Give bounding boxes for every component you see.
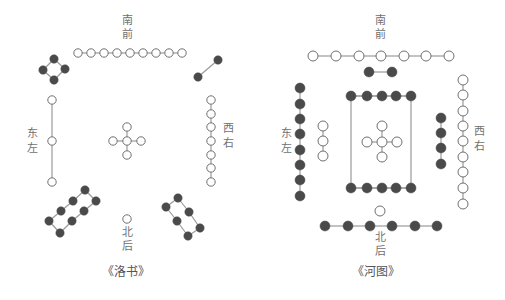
hetu-south-char: 南 [373, 14, 387, 27]
hetu-label-east: 东 左 [279, 127, 293, 155]
luoshu-black-dot-icon [61, 65, 69, 73]
luoshu-black-dot-icon [50, 76, 58, 84]
hetu-back-char: 后 [373, 245, 387, 258]
hetu-black-dot-icon [377, 91, 387, 101]
hetu-dots [295, 51, 468, 231]
hetu-white-dot-icon [458, 183, 468, 193]
luoshu-black-dot-icon [194, 73, 202, 81]
hetu-white-dot-icon [458, 90, 468, 100]
luoshu-black-dot-icon [57, 207, 65, 215]
hetu-white-dot-icon [354, 51, 364, 61]
hetu-north-char: 北 [373, 231, 387, 244]
luoshu-label-west: 西 右 [221, 122, 235, 150]
luoshu-black-dot-icon [81, 186, 89, 194]
hetu-right-char: 右 [472, 140, 486, 153]
hetu-white-dot-icon [458, 167, 468, 177]
hetu-label-north: 北 后 [373, 231, 387, 258]
hetu-black-dot-icon [432, 221, 442, 231]
hetu-black-dot-icon [387, 221, 397, 231]
luoshu-black-dot-icon [69, 197, 77, 205]
hetu-white-dot-icon [458, 106, 468, 116]
hetu-black-dot-icon [364, 67, 374, 77]
hetu-front-char: 前 [373, 28, 387, 41]
hetu-black-dot-icon [406, 183, 416, 193]
luoshu-black-dot-icon [162, 203, 170, 211]
hetu-white-dot-icon [308, 51, 318, 61]
luoshu-white-dot-icon [123, 123, 131, 131]
luoshu-black-dot-icon [196, 224, 204, 232]
hetu-label-south: 南 前 [373, 14, 387, 41]
hetu-black-dot-icon [387, 67, 397, 77]
hetu-left-char: 左 [279, 142, 293, 155]
hetu-black-dot-icon [436, 113, 446, 123]
luoshu-white-dot-icon [139, 49, 147, 57]
luoshu-white-dot-icon [207, 123, 215, 131]
luoshu-east-char: 东 [25, 127, 39, 140]
luoshu-white-dot-icon [207, 110, 215, 118]
hetu-east-char: 东 [279, 127, 293, 140]
hetu-black-dot-icon [377, 183, 387, 193]
hetu-caption: 《河图》 [352, 262, 400, 279]
hetu-black-dot-icon [346, 183, 356, 193]
luoshu-back-char: 后 [120, 240, 134, 253]
luoshu-west-char: 西 [221, 122, 235, 135]
hetu-black-dot-icon [295, 129, 305, 139]
hetu-white-dot-icon [377, 121, 387, 131]
luoshu-front-char: 前 [120, 28, 134, 41]
hetu-black-dot-icon [295, 114, 305, 124]
luoshu-white-dot-icon [48, 178, 56, 186]
luoshu-white-dot-icon [74, 49, 82, 57]
luoshu-north-char: 北 [120, 226, 134, 239]
luoshu-white-dot-icon [100, 49, 108, 57]
luoshu-white-dot-icon [137, 137, 145, 145]
luoshu-black-dot-icon [39, 66, 47, 74]
luoshu-white-dot-icon [207, 137, 215, 145]
luoshu-black-dot-icon [68, 217, 76, 225]
hetu-black-dot-icon [436, 128, 446, 138]
hetu-white-dot-icon [421, 51, 431, 61]
hetu-black-dot-icon [346, 91, 356, 101]
luoshu-white-dot-icon [207, 164, 215, 172]
hetu-white-dot-icon [399, 51, 409, 61]
luoshu-black-dot-icon [56, 229, 64, 237]
hetu-white-dot-icon [375, 206, 385, 216]
hetu-white-dot-icon [362, 137, 372, 147]
luoshu-black-dot-icon [214, 56, 222, 64]
hetu-west-char: 西 [472, 125, 486, 138]
luoshu-dots [39, 49, 222, 240]
hetu-black-dot-icon [295, 99, 305, 109]
luoshu-black-dot-icon [45, 217, 53, 225]
hetu-white-dot-icon [458, 152, 468, 162]
luoshu-black-dot-icon [92, 197, 100, 205]
hetu-white-dot-icon [318, 151, 328, 161]
hetu-black-dot-icon [436, 159, 446, 169]
hetu-black-dot-icon [295, 175, 305, 185]
hetu-white-dot-icon [444, 51, 454, 61]
hetu-black-dot-icon [320, 221, 330, 231]
hetu-black-dot-icon [295, 145, 305, 155]
luoshu-white-dot-icon [123, 137, 131, 145]
hetu-white-dot-icon [458, 136, 468, 146]
luoshu-white-dot-icon [113, 49, 121, 57]
luoshu-white-dot-icon [207, 151, 215, 159]
hetu-black-dot-icon [406, 91, 416, 101]
luoshu-label-north: 北 后 [120, 226, 134, 253]
luoshu-white-dot-icon [48, 137, 56, 145]
hetu-white-dot-icon [318, 121, 328, 131]
luoshu-label-east: 东 左 [25, 127, 39, 155]
hetu-label-west: 西 右 [472, 125, 486, 153]
luoshu-black-dot-icon [50, 55, 58, 63]
diagram-canvas [0, 0, 505, 300]
luoshu-right-char: 右 [221, 137, 235, 150]
hetu-white-dot-icon [392, 137, 402, 147]
hetu-black-dot-icon [365, 221, 375, 231]
hetu-white-dot-icon [376, 51, 386, 61]
hetu-black-dot-icon [362, 91, 372, 101]
hetu-black-dot-icon [362, 183, 372, 193]
luoshu-south-char: 南 [120, 14, 134, 27]
hetu-white-dot-icon [458, 121, 468, 131]
hetu-black-dot-icon [391, 183, 401, 193]
hetu-black-dot-icon [343, 221, 353, 231]
luoshu-white-dot-icon [87, 49, 95, 57]
luoshu-black-dot-icon [173, 217, 181, 225]
